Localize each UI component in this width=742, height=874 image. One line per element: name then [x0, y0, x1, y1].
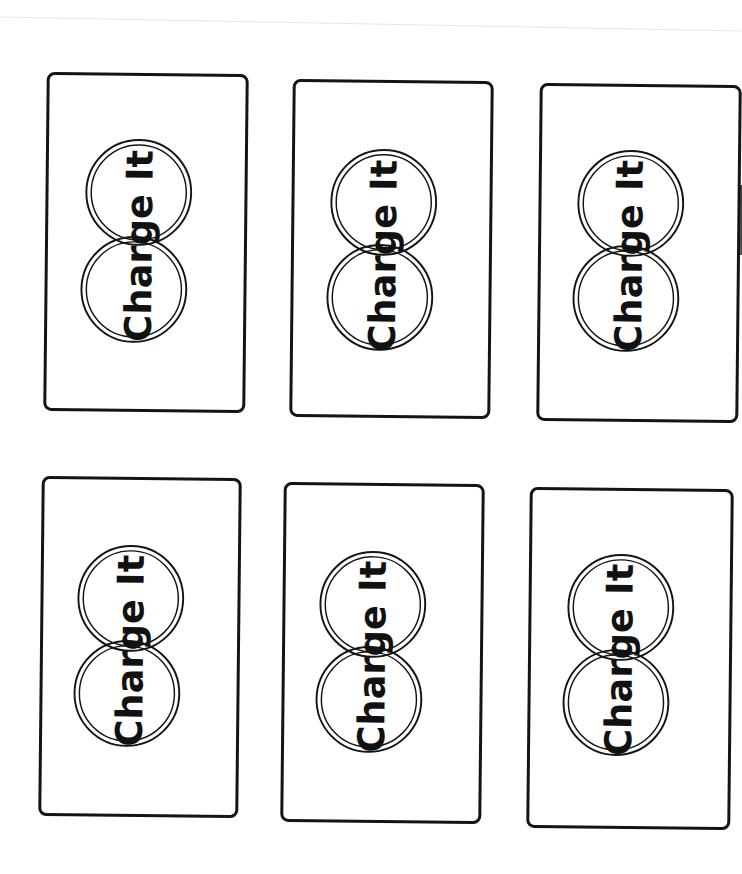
card-logo: Charge It	[529, 490, 730, 827]
credit-card-3: Charge It	[536, 83, 742, 423]
credit-card-5: Charge It	[280, 482, 485, 824]
card-label: Charge It	[361, 160, 406, 352]
card-label: Charge It	[597, 564, 642, 756]
card-label: Charge It	[607, 160, 652, 352]
card-label: Charge It	[350, 561, 395, 753]
card-logo: Charge It	[283, 485, 481, 821]
card-logo: Charge It	[292, 82, 490, 416]
credit-card-6: Charge It	[526, 487, 734, 830]
credit-card-4: Charge It	[38, 476, 242, 818]
card-label: Charge It	[108, 555, 153, 747]
card-logo: Charge It	[539, 86, 738, 420]
card-logo: Charge It	[41, 479, 238, 815]
credit-card-2: Charge It	[289, 79, 494, 419]
card-label: Charge It	[117, 150, 162, 342]
credit-card-1: Charge It	[43, 72, 249, 413]
card-logo: Charge It	[46, 75, 245, 410]
